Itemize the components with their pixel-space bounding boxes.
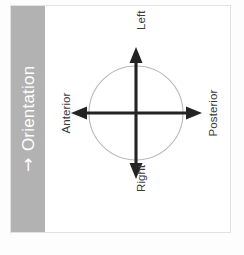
label-anterior: Anterior [60,92,72,133]
up-arrow-icon[interactable]: ↑ [21,157,35,174]
screenshot-root: ↑ Orientation Left Right [0,0,244,255]
orientation-widget: ↑ Orientation Left Right [10,5,231,233]
orientation-compass-svg: Left Right Anterior Posterior [45,6,230,232]
arrow-head-right-icon [186,107,202,120]
arrow-head-up-icon [130,47,143,63]
label-right: Right [135,164,147,192]
orientation-sidebar[interactable]: ↑ Orientation [11,6,45,232]
arrow-head-left-icon [71,107,87,120]
orientation-title: Orientation [20,66,37,151]
orientation-diagram: Left Right Anterior Posterior [45,6,230,232]
label-left: Left [135,10,147,30]
sidebar-inner: ↑ Orientation [20,66,37,173]
label-posterior: Posterior [207,89,219,136]
